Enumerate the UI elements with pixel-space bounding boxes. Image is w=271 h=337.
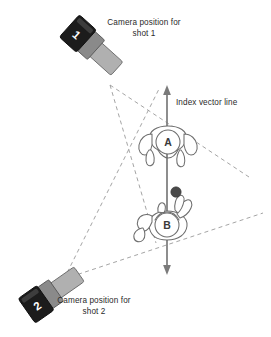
index-vector-arrow-bottom: [163, 265, 171, 275]
camera-position-diagram: A B: [0, 0, 271, 337]
index-vector-line: [163, 85, 171, 275]
camera-1-caption: Camera position for shot 1: [102, 18, 186, 39]
index-vector-caption: Index vector line: [176, 98, 268, 109]
view-cone-shot-2: [64, 89, 263, 279]
person-a-label: A: [164, 136, 172, 148]
diagram-canvas: A B: [0, 0, 271, 337]
person-a-hand-right: [177, 150, 185, 167]
person-b-hand-left: [134, 228, 145, 242]
index-vector-arrow-top: [163, 85, 171, 95]
person-b-label: B: [163, 219, 171, 231]
camera-2-caption: Camera position for shot 2: [52, 296, 136, 317]
person-a-hand-left: [146, 150, 154, 166]
person-a-arm-right: [184, 134, 197, 155]
cone2-edge-left: [64, 89, 159, 279]
held-ball-icon: [171, 187, 181, 197]
person-b-shoulder-left: [158, 203, 166, 213]
